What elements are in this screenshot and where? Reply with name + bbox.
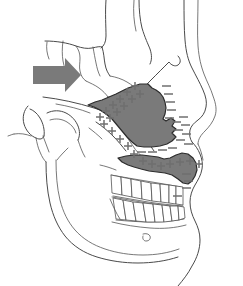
force-direction-arrow bbox=[33, 58, 81, 92]
ceph-tracing-canvas bbox=[0, 0, 243, 286]
mental-foramen bbox=[143, 234, 151, 241]
external-auditory-meatus bbox=[8, 106, 80, 162]
cranial-vault-outline bbox=[101, 0, 152, 64]
cephalometric-figure: Lateral cephalometric tracing force-dire… bbox=[0, 0, 243, 286]
soft-tissue-profile bbox=[178, 0, 216, 286]
maxilla-shaded-region bbox=[88, 84, 176, 147]
